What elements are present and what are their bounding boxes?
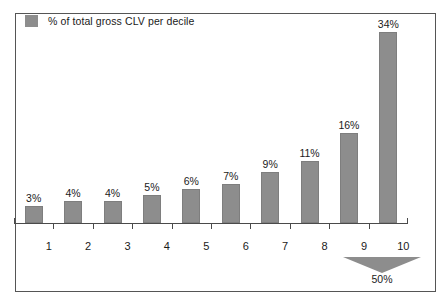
bar-column: 34% xyxy=(369,0,408,223)
x-axis-category-label: 7 xyxy=(265,240,304,252)
bar-column: 3% xyxy=(14,0,53,223)
bar-column: 11% xyxy=(290,0,329,223)
bar-column: 4% xyxy=(53,0,92,223)
chart-container: % of total gross CLV per decile 3%4%4%5%… xyxy=(0,0,448,308)
down-arrow-icon xyxy=(343,257,421,273)
bar xyxy=(301,161,319,223)
x-axis-ticks xyxy=(14,224,408,230)
x-axis-category-label: 8 xyxy=(305,240,344,252)
bar-column: 16% xyxy=(329,0,368,223)
bar xyxy=(379,32,397,223)
bar-column: 6% xyxy=(172,0,211,223)
bar xyxy=(25,206,43,223)
bar xyxy=(261,172,279,223)
bar xyxy=(143,195,161,223)
bar-value-label: 7% xyxy=(223,171,238,182)
x-axis-category-label: 4 xyxy=(147,240,186,252)
bar-value-label: 4% xyxy=(66,188,81,199)
x-axis-tick xyxy=(290,224,291,229)
x-axis-tick xyxy=(369,224,370,229)
bar-value-label: 6% xyxy=(184,176,199,187)
x-axis-tick xyxy=(132,224,133,229)
bar-column: 4% xyxy=(93,0,132,223)
x-axis-category-labels: 12345678910 xyxy=(29,240,423,252)
bar-value-label: 34% xyxy=(378,19,399,30)
bar xyxy=(182,189,200,223)
x-axis-category-label: 6 xyxy=(226,240,265,252)
x-axis-tick xyxy=(211,224,212,229)
callout-annotation: 50% xyxy=(343,257,421,290)
bar xyxy=(340,133,358,223)
callout-label: 50% xyxy=(343,274,421,286)
bar-value-label: 3% xyxy=(26,193,41,204)
bar-value-label: 4% xyxy=(105,188,120,199)
bar xyxy=(64,201,82,223)
x-axis-category-label: 3 xyxy=(108,240,147,252)
bar-column: 9% xyxy=(250,0,289,223)
bar-column: 5% xyxy=(132,0,171,223)
bar-value-label: 16% xyxy=(338,120,359,131)
bar xyxy=(104,201,122,223)
x-axis-tick xyxy=(93,224,94,229)
bar-value-label: 9% xyxy=(263,159,278,170)
x-axis-tick xyxy=(172,224,173,229)
x-axis-category-label: 9 xyxy=(344,240,383,252)
bar xyxy=(222,184,240,223)
bar-value-label: 5% xyxy=(144,182,159,193)
bar-column: 7% xyxy=(211,0,250,223)
plot-area: 3%4%4%5%6%7%9%11%16%34% xyxy=(14,0,408,224)
bar-series: 3%4%4%5%6%7%9%11%16%34% xyxy=(14,0,408,223)
x-axis-category-label: 2 xyxy=(68,240,107,252)
x-axis-category-label: 1 xyxy=(29,240,68,252)
x-axis-tick xyxy=(53,224,54,229)
x-axis-category-label: 5 xyxy=(187,240,226,252)
x-axis-tick xyxy=(329,224,330,229)
x-axis-tick xyxy=(250,224,251,229)
bar-value-label: 11% xyxy=(299,148,319,159)
x-axis-category-label: 10 xyxy=(384,240,423,252)
